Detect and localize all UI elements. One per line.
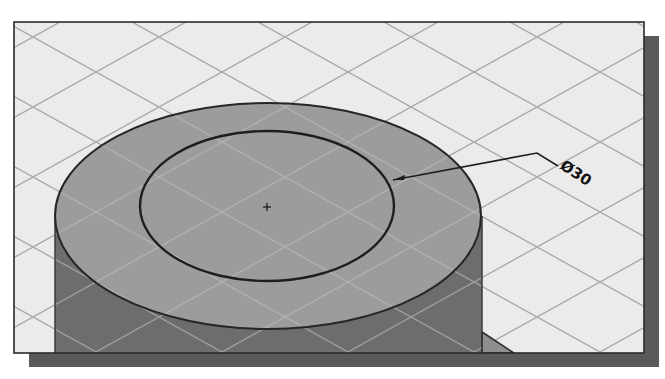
cad-viewport[interactable]: Ø30 — [0, 0, 665, 379]
